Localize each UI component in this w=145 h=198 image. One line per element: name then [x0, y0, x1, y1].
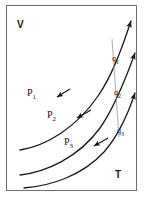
heat-label-q2-sub: 2 — [118, 93, 121, 99]
heat-label-q1: q1 — [112, 55, 119, 65]
vt-diagram-figure: V T P1 P2 P3 q1 q2 q3 — [0, 0, 145, 198]
heat-label-q3-sub: 3 — [121, 131, 124, 137]
direction-arrow-p3 — [94, 138, 108, 146]
axis-label-temperature: T — [115, 170, 121, 180]
curve-label-p3: P3 — [64, 137, 73, 150]
axis-label-volume: V — [17, 20, 24, 30]
heat-label-q2: q2 — [114, 89, 121, 99]
curve-label-p3-sub: 3 — [70, 142, 74, 150]
direction-arrow-p1 — [57, 89, 70, 97]
curve-label-p1: P1 — [27, 88, 36, 101]
curve-path-p1 — [20, 21, 131, 150]
heat-label-q3: q3 — [117, 127, 124, 137]
heat-label-q1-sub: 1 — [116, 59, 119, 65]
curve-label-p2: P2 — [47, 110, 56, 123]
direction-arrow-p2 — [77, 110, 91, 118]
curve-label-p2-sub: 2 — [53, 115, 57, 123]
curve-label-p1-sub: 1 — [33, 93, 37, 101]
isobar-curve-p1 — [20, 21, 131, 150]
